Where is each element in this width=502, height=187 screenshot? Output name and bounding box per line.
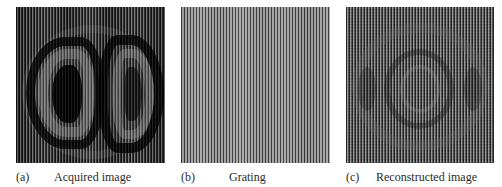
panel-caption: Acquired image xyxy=(54,168,131,186)
figure: (a) Acquired image (b) Grating (c) Recon… xyxy=(0,0,502,187)
panel-caption: Reconstructed image xyxy=(376,168,477,186)
panel-caption: Grating xyxy=(229,168,266,186)
caption-c: (c) Reconstructed image xyxy=(346,168,502,186)
panel-label: (a) xyxy=(16,168,29,186)
stripe-overlay xyxy=(346,7,494,163)
grating-bands xyxy=(181,7,330,163)
panel-label: (b) xyxy=(181,168,195,186)
reconstructed-image-panel xyxy=(346,7,494,163)
caption-b: (b) Grating xyxy=(181,168,341,186)
panel-label: (c) xyxy=(346,168,359,186)
caption-a: (a) Acquired image xyxy=(16,168,176,186)
stripe-overlay xyxy=(16,7,165,163)
acquired-image-panel xyxy=(16,7,165,163)
grating-panel xyxy=(181,7,330,163)
